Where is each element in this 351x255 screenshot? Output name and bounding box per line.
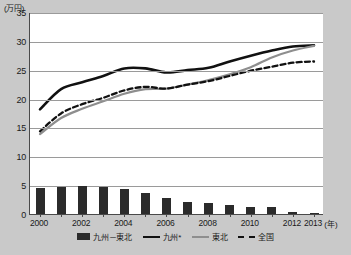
x-axis-tick-mark — [124, 214, 125, 217]
x-axis-tick-mark — [251, 214, 252, 217]
y-axis-tick-label: 30 — [2, 37, 26, 47]
y-axis-tick-label: 15 — [2, 123, 26, 133]
x-axis-tick-label: 2004 — [114, 218, 132, 228]
y-axis-tick-label: 5 — [2, 181, 26, 191]
y-axis-tick-label: 20 — [2, 95, 26, 105]
y-axis-tick-label: 25 — [2, 66, 26, 76]
solid-gray-line-swatch-icon — [192, 236, 209, 238]
x-axis-tick-mark — [103, 214, 104, 217]
x-axis-tick-mark — [209, 214, 210, 217]
bar — [141, 193, 150, 214]
y-axis-tick-label: 0 — [2, 210, 26, 220]
gridline — [30, 100, 323, 101]
solid-black-line-swatch-icon — [143, 236, 160, 238]
x-axis-tick-label: 2010 — [241, 218, 259, 228]
bar — [310, 213, 319, 214]
gridline — [30, 13, 323, 14]
bar — [99, 187, 108, 214]
x-axis-tick-label: 2008 — [199, 218, 217, 228]
bar — [120, 189, 129, 214]
x-axis-tick-mark — [293, 214, 294, 217]
bar — [246, 207, 255, 215]
gridline — [30, 42, 323, 43]
x-axis-tick-label: 2012 — [283, 218, 301, 228]
gridline — [30, 71, 323, 72]
x-axis-tick-label: 2013 — [304, 218, 322, 228]
x-axis-tick-mark — [40, 214, 41, 217]
x-axis-unit-label: (年) — [324, 218, 337, 229]
bar — [204, 203, 213, 214]
gridline — [30, 186, 323, 187]
legend-item[interactable]: 九州* — [143, 231, 181, 242]
x-axis-tick-mark — [82, 214, 83, 217]
bar — [267, 207, 276, 214]
legend-item-label: 九州－東北 — [93, 231, 132, 242]
line-series-overlay — [30, 13, 324, 215]
bar — [288, 212, 297, 214]
bar — [183, 202, 192, 214]
legend-item[interactable]: 九州－東北 — [77, 231, 132, 242]
legend-item-label: 東北 — [212, 231, 227, 242]
legend-item-label: 全国 — [258, 231, 273, 242]
x-axis-tick-label: 2006 — [156, 218, 174, 228]
x-axis-tick-label: 2002 — [72, 218, 90, 228]
bar — [36, 188, 45, 214]
x-axis-tick-mark — [230, 214, 231, 217]
bar — [225, 205, 234, 214]
x-axis-tick-mark — [272, 214, 273, 217]
chart-container: (万円) 05101520253035 20002002200420062008… — [0, 0, 351, 255]
x-axis-tick-mark — [61, 214, 62, 217]
bar — [57, 187, 66, 214]
chart-legend: 九州－東北九州*東北全国 — [0, 231, 351, 242]
x-axis-tick-mark — [314, 214, 315, 217]
x-axis-tick-label: 2000 — [30, 218, 48, 228]
bar — [162, 198, 171, 214]
y-axis-tick-label: 35 — [2, 8, 26, 18]
x-axis-tick-mark — [145, 214, 146, 217]
y-axis-tick-label: 10 — [2, 152, 26, 162]
legend-item-label: 九州* — [163, 231, 181, 242]
dashed-black-line-swatch-icon — [238, 236, 255, 238]
x-axis-tick-mark — [188, 214, 189, 217]
gridline — [30, 157, 323, 158]
bar-swatch-icon — [77, 233, 90, 240]
x-axis-tick-mark — [166, 214, 167, 217]
bar — [78, 186, 87, 214]
legend-item[interactable]: 東北 — [192, 231, 227, 242]
gridline — [30, 128, 323, 129]
plot-area — [29, 13, 323, 215]
line-series — [40, 46, 314, 134]
legend-item[interactable]: 全国 — [238, 231, 273, 242]
